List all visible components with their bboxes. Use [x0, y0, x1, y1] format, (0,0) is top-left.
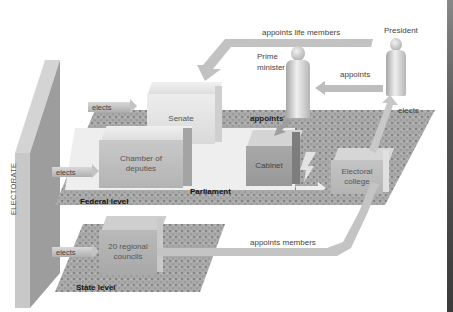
- elects-senate-arrow: elects: [88, 102, 130, 112]
- elects-regional-arrow: elects: [52, 247, 92, 257]
- edge-strip: [447, 0, 453, 312]
- appoints-pm-label: appoints: [340, 70, 370, 79]
- elects-president-label: elects: [398, 106, 419, 115]
- president-body-icon: [386, 50, 406, 96]
- senate-label: Senate: [168, 114, 193, 124]
- elects-senate-label: elects: [92, 103, 112, 112]
- appoints-life-members-label: appoints life members: [262, 28, 340, 37]
- pm-label-line1: Prime: [257, 52, 278, 61]
- prime-minister-head-icon: [291, 46, 305, 61]
- prime-minister-figure: [283, 46, 313, 118]
- prime-minister-body-icon: [286, 60, 310, 118]
- elects-regional-label: elects: [56, 248, 76, 257]
- chamber-label-line1: Chamber of: [120, 154, 162, 163]
- elects-chamber-arrow: elects: [52, 167, 92, 177]
- federal-level-label: Federal level: [80, 197, 128, 206]
- appoints-members-label: appoints members: [250, 238, 316, 247]
- appoints-members-arrow: [157, 182, 387, 260]
- elects-president-arrow: [368, 95, 398, 155]
- cabinet-label: Cabinet: [255, 161, 283, 171]
- appoints-cabinet-label: appoints: [250, 114, 283, 123]
- regional-label-line2: councils: [114, 252, 143, 261]
- president-figure: [384, 38, 408, 96]
- chamber-label-line2: deputies: [126, 164, 156, 173]
- pm-label-line2: minister: [257, 63, 285, 72]
- appoints-pm-arrow: [315, 80, 385, 96]
- elects-chamber-label: elects: [56, 168, 76, 177]
- regional-label-line1: 20 regional: [108, 242, 148, 251]
- parliament-to-college-arrow: [292, 150, 332, 190]
- president-label: President: [384, 26, 418, 35]
- state-level-label: State level: [76, 283, 116, 292]
- electoral-label-line1: Electoral: [341, 167, 372, 176]
- electorate-label: ELECTORATE: [9, 163, 18, 215]
